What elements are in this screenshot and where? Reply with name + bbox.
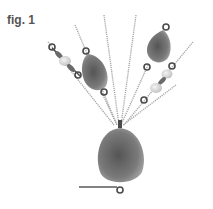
figure: fig. 1 [0,0,213,209]
small-drop-bead-left [82,48,108,95]
earring-illustration [0,0,213,209]
large-drop-bead [98,120,144,182]
pearl-link-left [49,44,81,78]
small-drop-bead-right [144,24,171,70]
ear-wire [79,187,123,193]
chains [48,15,193,125]
